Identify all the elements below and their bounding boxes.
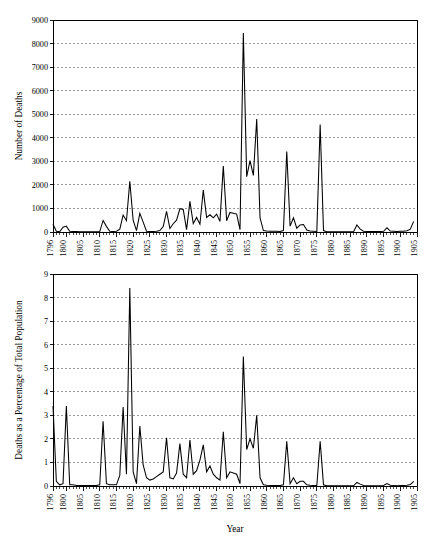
x-tick-label: 1835: [176, 240, 185, 256]
chart-bottom-canvas: 0123456789179618001805181018151820182518…: [0, 270, 432, 541]
x-tick-label: 1870: [293, 494, 302, 510]
y-tick-label: 8000: [32, 40, 48, 49]
x-tick-label: 1845: [210, 494, 219, 510]
x-tick-label: 1820: [126, 240, 135, 256]
y-tick-label: 4: [44, 388, 48, 397]
x-tick-label: 1850: [226, 494, 235, 510]
x-tick-label: 1796: [46, 494, 55, 510]
y-tick-label: 7000: [32, 63, 48, 72]
y-axis-title: Number of Deaths: [14, 91, 24, 160]
y-tick-label: 3: [44, 411, 48, 420]
x-tick-label: 1865: [276, 494, 285, 510]
x-tick-label: 1900: [393, 240, 402, 256]
y-tick-label: 6000: [32, 87, 48, 96]
y-tick-label: 5000: [32, 110, 48, 119]
y-tick-label: 1000: [32, 204, 48, 213]
y-tick-label: 0: [44, 482, 48, 491]
x-tick-label: 1820: [126, 494, 135, 510]
y-tick-label: 9000: [32, 16, 48, 25]
chart-deaths-percentage: 0123456789179618001805181018151820182518…: [0, 270, 432, 541]
x-tick-label: 1895: [377, 494, 386, 510]
x-tick-label: 1835: [176, 494, 185, 510]
y-tick-label: 3000: [32, 157, 48, 166]
x-tick-label: 1850: [226, 240, 235, 256]
x-tick-label: 1880: [327, 240, 336, 256]
y-tick-label: 0: [44, 228, 48, 237]
x-tick-label: 1890: [360, 494, 369, 510]
x-tick-label: 1810: [93, 494, 102, 510]
y-tick-label: 9: [44, 270, 48, 279]
x-tick-label: 1805: [76, 494, 85, 510]
x-tick-label: 1800: [59, 494, 68, 510]
x-tick-label: 1860: [260, 494, 269, 510]
y-tick-label: 2000: [32, 181, 48, 190]
chart-top-canvas: 0100020003000400050006000700080009000179…: [0, 0, 432, 270]
x-tick-label: 1815: [109, 240, 118, 256]
x-tick-label: 1830: [160, 240, 169, 256]
y-tick-label: 2: [44, 435, 48, 444]
x-tick-label: 1840: [193, 494, 202, 510]
x-tick-label: 1905: [410, 240, 419, 256]
x-tick-label: 1905: [410, 494, 419, 510]
x-tick-label: 1800: [59, 240, 68, 256]
y-tick-label: 5: [44, 364, 48, 373]
y-axis-title: Deaths as a Percentage of Total Populati…: [14, 300, 24, 460]
x-tick-label: 1825: [143, 494, 152, 510]
data-series-line: [53, 33, 414, 232]
plot-frame: [53, 20, 417, 232]
x-tick-label: 1815: [109, 494, 118, 510]
x-tick-label: 1895: [377, 240, 386, 256]
x-axis-title: Year: [226, 524, 244, 534]
x-tick-label: 1880: [327, 494, 336, 510]
x-tick-label: 1830: [160, 494, 169, 510]
x-tick-label: 1900: [393, 494, 402, 510]
chart-page: 0100020003000400050006000700080009000179…: [0, 0, 432, 541]
y-tick-label: 6: [44, 341, 48, 350]
plot-frame: [53, 274, 417, 486]
x-tick-label: 1840: [193, 240, 202, 256]
x-tick-label: 1805: [76, 240, 85, 256]
x-tick-label: 1865: [276, 240, 285, 256]
y-tick-label: 7: [44, 317, 48, 326]
x-tick-label: 1796: [46, 240, 55, 256]
x-tick-label: 1845: [210, 240, 219, 256]
x-tick-label: 1875: [310, 240, 319, 256]
chart-number-of-deaths: 0100020003000400050006000700080009000179…: [0, 0, 432, 270]
x-tick-label: 1875: [310, 494, 319, 510]
data-series-line: [53, 288, 414, 486]
x-tick-label: 1885: [343, 494, 352, 510]
x-tick-label: 1890: [360, 240, 369, 256]
y-tick-label: 8: [44, 294, 48, 303]
x-tick-label: 1860: [260, 240, 269, 256]
x-tick-label: 1870: [293, 240, 302, 256]
x-tick-label: 1855: [243, 240, 252, 256]
x-tick-label: 1885: [343, 240, 352, 256]
x-tick-label: 1825: [143, 240, 152, 256]
x-tick-label: 1810: [93, 240, 102, 256]
y-tick-label: 4000: [32, 134, 48, 143]
x-tick-label: 1855: [243, 494, 252, 510]
y-tick-label: 1: [44, 458, 48, 467]
